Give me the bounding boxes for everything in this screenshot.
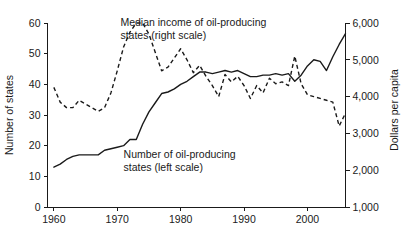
- left-axis-ticks: [44, 23, 48, 207]
- right-axis-ticks: [346, 23, 350, 207]
- x-axis-ticks: [54, 207, 308, 211]
- left-tick-label: 30: [29, 109, 41, 121]
- x-tick-label: 1990: [232, 213, 256, 225]
- left-axis-tick-labels: 0102030405060: [29, 17, 41, 213]
- right-tick-label: 6,000: [353, 17, 379, 29]
- left-tick-label: 10: [29, 170, 41, 182]
- right-tick-label: 4,000: [353, 90, 379, 102]
- right-tick-label: 2,000: [353, 164, 379, 176]
- right-tick-label: 3,000: [353, 127, 379, 139]
- left-tick-label: 20: [29, 139, 41, 151]
- right-axis-title: Dollars per capita: [388, 69, 400, 151]
- x-tick-label: 1980: [169, 213, 193, 225]
- chart-annotations: Median income of oil-producingstates (ri…: [120, 16, 266, 173]
- annotation-number-of-states-line: Number of oil-producing: [124, 148, 236, 160]
- x-axis-tick-labels: 19601970198019902000: [42, 213, 319, 225]
- annotation-median-income-line: Median income of oil-producing: [120, 16, 266, 28]
- left-tick-label: 50: [29, 47, 41, 59]
- left-axis-title: Number of states: [3, 75, 15, 155]
- right-tick-label: 1,000: [353, 201, 379, 213]
- chart-canvas: 0102030405060 1,0002,0003,0004,0005,0006…: [0, 0, 408, 245]
- annotation-median-income-line: states (right scale): [120, 29, 206, 41]
- right-axis-tick-labels: 1,0002,0003,0004,0005,0006,000: [353, 17, 379, 213]
- chart-figure: 0102030405060 1,0002,0003,0004,0005,0006…: [0, 0, 408, 245]
- annotation-number-of-states-line: states (left scale): [124, 161, 203, 173]
- x-tick-label: 2000: [296, 213, 320, 225]
- right-tick-label: 5,000: [353, 54, 379, 66]
- left-tick-label: 0: [35, 201, 41, 213]
- x-tick-label: 1970: [106, 213, 130, 225]
- left-tick-label: 60: [29, 17, 41, 29]
- left-tick-label: 40: [29, 78, 41, 90]
- x-tick-label: 1960: [42, 213, 66, 225]
